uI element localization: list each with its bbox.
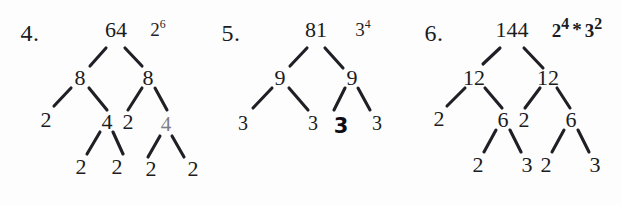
problem-4-level3-d: 2 — [188, 158, 199, 180]
problem-6-level2-b: 6 — [498, 109, 509, 131]
problem-5-root-node: 81 — [305, 19, 327, 41]
problem-4-level3-a: 2 — [76, 156, 87, 178]
problem-4-level1-right: 8 — [143, 67, 154, 89]
problem-5-level1-left: 9 — [275, 67, 286, 89]
problem-5-level1-right: 9 — [347, 67, 358, 89]
problem-6-level1-right: 12 — [537, 67, 559, 89]
problem-5-answer-exponent: 4 — [365, 18, 371, 31]
problem-6-level3-a: 2 — [473, 154, 484, 176]
problem-4-answer: 26 — [150, 20, 165, 39]
problem-number-5: 5. — [222, 21, 241, 45]
problem-4-answer-exponent: 6 — [160, 18, 166, 31]
problem-5-leaf-d: 3 — [372, 113, 382, 133]
worksheet-sheet: 4. 64 26 8 8 2 4 2 4 2 2 2 2 5. 81 34 9 … — [0, 0, 621, 205]
edges-problem-6 — [447, 48, 589, 152]
problem-6-level2-c: 2 — [519, 109, 530, 131]
problem-6-answer-base-1: 2 — [552, 20, 562, 41]
problem-6-root-node: 144 — [496, 19, 529, 41]
problem-4-level3-b: 2 — [112, 156, 123, 178]
problem-6-level3-c: 2 — [541, 154, 552, 176]
problem-4-answer-base: 2 — [150, 19, 160, 40]
problem-6-level3-b: 3 — [522, 154, 533, 176]
problem-5-leaf-a: 3 — [238, 113, 248, 133]
problem-4-level2-a: 2 — [41, 109, 52, 131]
edges-problem-4 — [54, 48, 184, 157]
problem-4-level2-d: 4 — [161, 114, 172, 135]
problem-6-level2-a: 2 — [434, 108, 445, 130]
problem-4-level2-c: 2 — [123, 111, 134, 133]
problem-5-leaf-c: 3 — [334, 116, 349, 137]
problem-number-6: 6. — [425, 21, 444, 45]
problem-5-answer-base: 3 — [355, 19, 365, 40]
problem-6-answer-exponent-2: 2 — [594, 15, 602, 32]
problem-5-answer: 34 — [355, 20, 370, 39]
problem-5-leaf-b: 3 — [308, 113, 318, 133]
problem-6-level1-left: 12 — [463, 67, 485, 89]
problem-4-root-node: 64 — [105, 19, 127, 41]
problem-6-level2-d: 6 — [566, 109, 577, 131]
problem-4-level3-c: 2 — [146, 158, 157, 180]
problem-number-4: 4. — [21, 21, 40, 45]
problem-4-level2-b: 4 — [102, 111, 113, 133]
problem-6-level3-d: 3 — [590, 154, 601, 176]
problem-6-answer-base-2: 3 — [585, 20, 595, 41]
problem-6-answer-operator: * — [569, 20, 585, 41]
problem-6-answer: 24*32 — [552, 16, 602, 39]
problem-4-level1-left: 8 — [75, 67, 86, 89]
